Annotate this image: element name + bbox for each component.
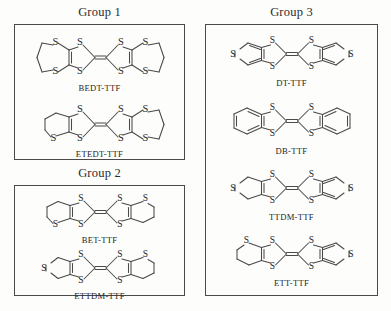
svg-text:S: S xyxy=(143,132,149,143)
svg-text:S: S xyxy=(53,219,58,229)
molecule-dt-ttf: SS S SS S xyxy=(216,31,368,77)
bet-ttf-structure: SS S SS S xyxy=(23,190,178,234)
svg-text:S: S xyxy=(348,249,353,259)
svg-text:S: S xyxy=(309,261,314,271)
svg-text:S: S xyxy=(230,183,235,193)
molecule-db-ttf: SS SS xyxy=(216,97,368,145)
svg-text:S: S xyxy=(118,65,124,76)
svg-text:S: S xyxy=(53,65,59,76)
svg-text:S: S xyxy=(244,235,249,245)
svg-text:S: S xyxy=(348,183,353,193)
etedt-ttf-structure: SS S SS SS xyxy=(19,97,182,149)
svg-text:S: S xyxy=(118,103,124,114)
svg-text:S: S xyxy=(309,35,314,45)
svg-text:S: S xyxy=(309,195,314,205)
molecule-label-ettdm-ttf: ETTDM-TTF xyxy=(15,291,184,301)
group-1-title: Group 1 xyxy=(14,5,185,20)
molecule-ettdm-ttf: SS S SS S xyxy=(23,246,178,290)
molecule-bedt-ttf: SS SS SS SS xyxy=(19,30,182,82)
svg-text:S: S xyxy=(270,102,275,112)
svg-text:S: S xyxy=(117,275,122,285)
group-2-title: Group 2 xyxy=(14,166,185,181)
ettdm-ttf-structure: SS S SS S xyxy=(23,246,178,290)
svg-text:S: S xyxy=(117,219,122,229)
svg-text:S: S xyxy=(118,36,124,47)
svg-text:S: S xyxy=(270,195,275,205)
group-1-box: SS SS SS SS BEDT-TTF xyxy=(14,24,185,160)
db-ttf-structure: SS SS xyxy=(216,97,368,145)
ett-ttf-structure: SS S SS S xyxy=(216,231,368,277)
svg-text:S: S xyxy=(78,219,83,229)
svg-text:S: S xyxy=(143,103,149,114)
svg-text:S: S xyxy=(309,61,314,71)
svg-text:S: S xyxy=(51,132,57,143)
svg-text:S: S xyxy=(117,193,122,203)
svg-text:S: S xyxy=(309,128,314,138)
svg-text:S: S xyxy=(143,65,149,76)
molecule-bet-ttf: SS S SS S xyxy=(23,190,178,234)
molecule-ttdm-ttf: SS S SS S xyxy=(216,165,368,211)
molecule-label-dt-ttf: DT-TTF xyxy=(206,78,377,88)
svg-text:S: S xyxy=(230,49,235,59)
svg-text:S: S xyxy=(270,235,275,245)
svg-text:S: S xyxy=(143,249,148,259)
svg-text:S: S xyxy=(270,261,275,271)
svg-text:S: S xyxy=(53,36,59,47)
svg-text:S: S xyxy=(270,128,275,138)
svg-text:S: S xyxy=(309,169,314,179)
svg-text:S: S xyxy=(41,263,46,273)
molecule-label-etedt-ttf: ETEDT-TTF xyxy=(15,149,184,159)
svg-text:S: S xyxy=(77,65,83,76)
molecule-label-db-ttf: DB-TTF xyxy=(206,146,377,156)
svg-text:S: S xyxy=(78,275,83,285)
molecule-label-bet-ttf: BET-TTF xyxy=(15,235,184,245)
svg-text:S: S xyxy=(143,36,149,47)
molecule-label-bedt-ttf: BEDT-TTF xyxy=(15,83,184,93)
group-3-title: Group 3 xyxy=(205,5,378,20)
svg-text:S: S xyxy=(143,193,148,203)
ttdm-ttf-structure: SS S SS S xyxy=(216,165,368,211)
svg-text:S: S xyxy=(270,35,275,45)
svg-text:S: S xyxy=(77,132,83,143)
svg-text:S: S xyxy=(348,49,353,59)
svg-text:S: S xyxy=(78,249,83,259)
svg-text:S: S xyxy=(117,249,122,259)
group-3-box: SS S SS S DT-TTF xyxy=(205,24,378,296)
svg-text:S: S xyxy=(78,193,83,203)
molecule-etedt-ttf: SS S SS SS xyxy=(19,97,182,149)
svg-text:S: S xyxy=(270,169,275,179)
svg-text:S: S xyxy=(118,132,124,143)
molecule-ett-ttf: SS S SS S xyxy=(216,231,368,277)
molecule-label-ttdm-ttf: TTDM-TTF xyxy=(206,212,377,222)
group-2-box: SS S SS S BET-TTF xyxy=(14,185,185,296)
dt-ttf-structure: SS S SS S xyxy=(216,31,368,77)
svg-text:S: S xyxy=(309,235,314,245)
molecular-structure-figure: Group 1 xyxy=(0,0,391,311)
bedt-ttf-structure: SS SS SS SS xyxy=(19,30,182,82)
svg-text:S: S xyxy=(309,102,314,112)
molecule-label-ett-ttf: ETT-TTF xyxy=(206,278,377,288)
svg-text:S: S xyxy=(77,103,83,114)
svg-text:S: S xyxy=(77,36,83,47)
svg-text:S: S xyxy=(270,61,275,71)
